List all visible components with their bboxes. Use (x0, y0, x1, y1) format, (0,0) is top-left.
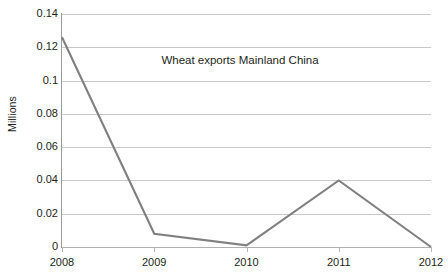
plot-area (62, 14, 431, 247)
y-axis-tick-labels: 00.020.040.060.080.10.120.14 (0, 0, 58, 279)
x-axis-tick (62, 247, 63, 252)
x-axis-tick-label: 2012 (401, 255, 448, 269)
series-line-svg (62, 14, 431, 247)
y-axis-tick-label: 0.12 (0, 41, 58, 52)
y-axis-tick-label: 0.14 (0, 8, 58, 19)
y-axis-tick-label: 0.1 (0, 75, 58, 86)
x-axis-tick-label: 2008 (32, 255, 92, 269)
chart-title: Wheat exports Mainland China (120, 54, 360, 66)
x-axis-tick (154, 247, 155, 252)
x-axis-tick (431, 247, 432, 252)
x-axis-tick-labels: 20082009201020112012 (62, 255, 431, 273)
y-axis-tick-label: 0.08 (0, 108, 58, 119)
x-axis-ticks (62, 247, 431, 253)
y-axis-tick-label: 0 (0, 241, 58, 252)
series-line-wheat-exports (62, 37, 431, 247)
y-axis-tick-label: 0.04 (0, 174, 58, 185)
x-axis-tick-label: 2009 (124, 255, 184, 269)
y-axis-tick-label: 0.02 (0, 208, 58, 219)
x-axis-tick (247, 247, 248, 252)
x-axis-tick-label: 2011 (309, 255, 369, 269)
y-axis-tick-label: 0.06 (0, 141, 58, 152)
x-axis-tick-label: 2010 (217, 255, 277, 269)
x-axis-tick (339, 247, 340, 252)
